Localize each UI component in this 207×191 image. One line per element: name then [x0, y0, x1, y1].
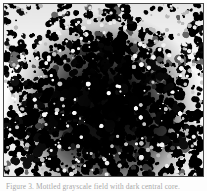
figure-caption: Figure 3. Mottled grayscale field with d…	[6, 182, 202, 191]
figure-image-panel	[3, 3, 204, 177]
grayscale-texture-image	[4, 4, 203, 176]
figure-root: Figure 3. Mottled grayscale field with d…	[0, 0, 207, 191]
